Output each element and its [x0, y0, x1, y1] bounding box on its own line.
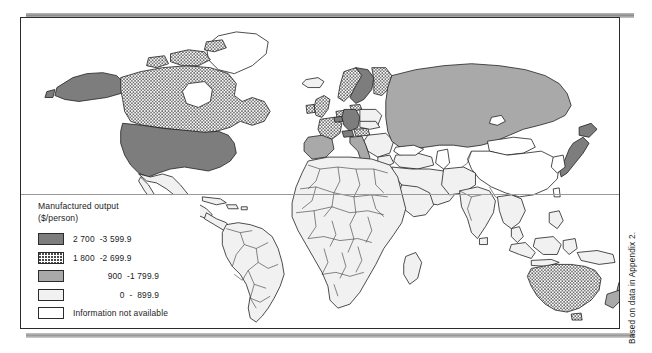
region-hispaniola: [226, 205, 238, 209]
region-madagascar: [404, 252, 422, 284]
region-alaska: [45, 73, 125, 102]
source-credit: Based on data in Appendix 2.: [628, 184, 637, 344]
region-united-kingdom: [314, 96, 330, 118]
region-sulawesi: [563, 239, 577, 255]
region-ireland: [306, 104, 315, 113]
legend-label: 0 - 899.9: [73, 290, 159, 300]
legend-row: 2 700 -3 599.9: [38, 230, 196, 249]
legend-swatch-light-gray-solid: [38, 289, 64, 301]
region-new-zealand-south: [605, 290, 619, 308]
region-canada-arctic-island-2: [147, 56, 169, 68]
legend-row: Information not available: [38, 304, 196, 323]
region-ussr: [386, 64, 571, 149]
legend-swatch-white-empty: [38, 307, 64, 319]
region-austria: [354, 128, 370, 136]
region-taiwan: [553, 188, 560, 197]
region-africa: [292, 157, 406, 308]
legend-row: 900 -1 799.9: [38, 267, 196, 286]
region-borneo: [533, 237, 561, 255]
region-indochina: [497, 195, 525, 229]
region-new-guinea: [577, 251, 615, 265]
legend-label: Information not available: [73, 308, 168, 318]
region-japan-hokkaido: [579, 123, 597, 137]
figure-world-manufactured-output: Manufactured output ($/person) 2 700 -3 …: [0, 0, 652, 353]
region-sumatra: [509, 243, 535, 259]
region-west-germany: [342, 109, 360, 131]
region-australia: [527, 264, 601, 312]
region-united-states: [121, 123, 237, 177]
legend-title-line2: ($/person): [38, 213, 196, 225]
legend-row: 1 800 -2 699.9: [38, 249, 196, 268]
region-czechoslovakia: [360, 121, 380, 129]
sea-caspian: [436, 149, 450, 169]
region-philippines: [549, 211, 563, 229]
region-spain: [304, 135, 334, 159]
region-tasmania: [571, 313, 582, 320]
region-cuba: [202, 197, 226, 205]
region-south-america: [222, 223, 284, 322]
map-legend: Manufactured output ($/person) 2 700 -3 …: [30, 195, 200, 329]
region-puerto-rico: [241, 207, 247, 210]
region-switzerland: [342, 130, 354, 137]
legend-label: 1 800 -2 699.9: [73, 253, 159, 263]
legend-label: 900 -1 799.9: [73, 271, 159, 281]
legend-row: 0 - 899.9: [38, 286, 196, 305]
legend-entries: 2 700 -3 599.9 1 800 -2 699.9 900 -1 799…: [38, 230, 196, 323]
region-iceland: [302, 78, 324, 88]
legend-title-line1: Manufactured output: [38, 201, 196, 213]
region-greenland: [206, 32, 268, 74]
region-malay-peninsula: [511, 227, 523, 243]
region-sri-lanka: [479, 238, 487, 245]
map-frame: Manufactured output ($/person) 2 700 -3 …: [20, 17, 620, 329]
region-canada-arctic-islands: [171, 50, 211, 66]
legend-swatch-medium-gray-solid: [38, 270, 64, 282]
legend-swatch-dark-gray-solid: [38, 233, 64, 245]
plate-edge-bottom: [26, 333, 634, 338]
legend-label: 2 700 -3 599.9: [73, 234, 159, 244]
legend-swatch-dotted-screen: [38, 252, 64, 264]
